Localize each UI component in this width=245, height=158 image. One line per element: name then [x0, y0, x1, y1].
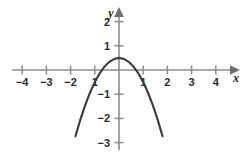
y-label-neg3: −3 [97, 137, 110, 149]
y-label-neg2: −2 [97, 112, 110, 124]
y-axis-label: y [106, 6, 114, 20]
y-axis-arrow-icon [114, 7, 124, 17]
x-label-neg2: −2 [64, 76, 77, 88]
parabola-plot: −4 −3 −2 1 1 2 3 4 2 1 −1 −2 −3 x y [0, 0, 245, 158]
graph-figure: −4 −3 −2 1 1 2 3 4 2 1 −1 −2 −3 x y [0, 0, 245, 158]
x-axis-label: x [232, 71, 239, 85]
y-label-pos1: 1 [104, 40, 110, 52]
x-label-neg3: −3 [40, 76, 53, 88]
x-label-neg4: −4 [16, 76, 29, 88]
x-label-pos3: 3 [189, 76, 195, 88]
x-label-pos2: 2 [164, 76, 170, 88]
x-label-pos4: 4 [213, 76, 220, 88]
y-label-neg1: −1 [97, 88, 110, 100]
